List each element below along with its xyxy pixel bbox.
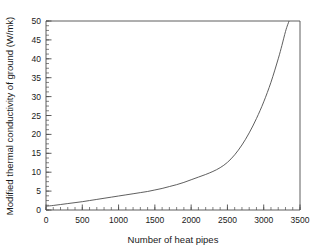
- x-axis-tick-label: 3000: [254, 215, 273, 225]
- y-axis-tick-label: 15: [32, 148, 42, 158]
- y-axis-tick-label: 45: [32, 35, 42, 45]
- y-axis-tick-label: 35: [32, 73, 42, 83]
- x-axis-tick-label: 2500: [218, 215, 237, 225]
- x-axis-tick-label: 500: [75, 215, 89, 225]
- y-axis-tick-label: 30: [32, 92, 42, 102]
- y-axis-tick-label: 40: [32, 54, 42, 64]
- x-axis-tick-label: 1000: [109, 215, 128, 225]
- y-axis-tick-label: 10: [32, 167, 42, 177]
- y-axis-tick-label: 20: [32, 129, 42, 139]
- chart-figure: 0500100015002000250030003500 05101520253…: [0, 0, 327, 252]
- y-axis-tick-label: 5: [36, 186, 41, 196]
- x-axis-tick-label: 1500: [145, 215, 164, 225]
- y-axis-title: Modified thermal conductivity of ground …: [4, 17, 15, 216]
- y-axis-tick-label: 25: [32, 111, 42, 121]
- x-axis-tick-label: 2000: [182, 215, 201, 225]
- y-axis-tick-label: 0: [36, 205, 41, 215]
- line-chart: 0500100015002000250030003500 05101520253…: [0, 0, 327, 252]
- x-axis-title: Number of heat pipes: [128, 234, 219, 245]
- y-axis-tick-label: 50: [32, 16, 42, 26]
- x-axis-tick-label: 3500: [291, 215, 310, 225]
- x-axis-tick-label: 0: [44, 215, 49, 225]
